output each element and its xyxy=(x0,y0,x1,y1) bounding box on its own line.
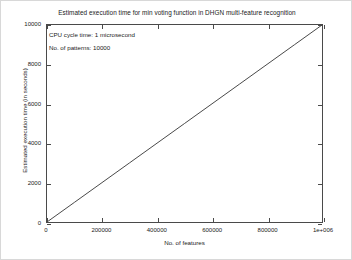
x-tick-top xyxy=(158,25,159,29)
y-tick-right xyxy=(318,144,322,145)
x-tick-top xyxy=(102,25,103,29)
x-tick-label: 1e+006 xyxy=(313,227,333,233)
y-tick-left xyxy=(47,144,51,145)
plot-inner xyxy=(47,25,322,222)
x-tick-bottom xyxy=(213,218,214,222)
y-tick-label: 0 xyxy=(3,220,41,226)
y-tick-right xyxy=(318,65,322,66)
y-tick-left xyxy=(47,184,51,185)
y-tick-right xyxy=(318,184,322,185)
x-tick-bottom xyxy=(102,218,103,222)
y-tick-left xyxy=(47,25,51,26)
x-tick-label: 400000 xyxy=(147,227,167,233)
x-axis-label: No. of features xyxy=(46,239,323,246)
plot-area: CPU cycle time: 1 microsecondNo. of patt… xyxy=(46,24,323,223)
y-axis-label: Estimated execution time (in seconds) xyxy=(21,51,28,191)
chart-title: Estimated execution time for min voting … xyxy=(1,9,352,16)
series-polyline xyxy=(47,25,322,222)
y-tick-left xyxy=(47,65,51,66)
x-tick-top xyxy=(213,25,214,29)
x-tick-label: 0 xyxy=(44,227,47,233)
x-tick-label: 800000 xyxy=(258,227,278,233)
x-tick-bottom xyxy=(269,218,270,222)
plot-annotation: No. of patterns: 10000 xyxy=(49,44,110,51)
x-tick-top xyxy=(324,25,325,29)
series-line-estimated-execution-time xyxy=(47,25,322,222)
y-tick-left xyxy=(47,224,51,225)
x-tick-bottom xyxy=(324,218,325,222)
plot-annotation: CPU cycle time: 1 microsecond xyxy=(49,31,135,38)
y-tick-right xyxy=(318,224,322,225)
y-tick-label: 10000 xyxy=(3,21,41,27)
x-tick-bottom xyxy=(158,218,159,222)
x-tick-label: 200000 xyxy=(91,227,111,233)
x-tick-bottom xyxy=(47,218,48,222)
y-tick-right xyxy=(318,105,322,106)
x-tick-label: 600000 xyxy=(202,227,222,233)
x-tick-top xyxy=(269,25,270,29)
y-tick-left xyxy=(47,105,51,106)
y-tick-right xyxy=(318,25,322,26)
chart-figure: Estimated execution time for min voting … xyxy=(0,0,352,260)
